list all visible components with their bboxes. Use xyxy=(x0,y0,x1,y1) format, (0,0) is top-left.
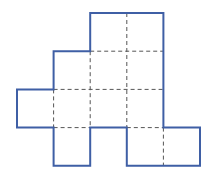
interior-grid-lines xyxy=(54,13,164,166)
polyomino-diagram xyxy=(0,0,214,178)
polyomino-outline xyxy=(17,13,200,166)
figure-canvas xyxy=(0,0,214,178)
